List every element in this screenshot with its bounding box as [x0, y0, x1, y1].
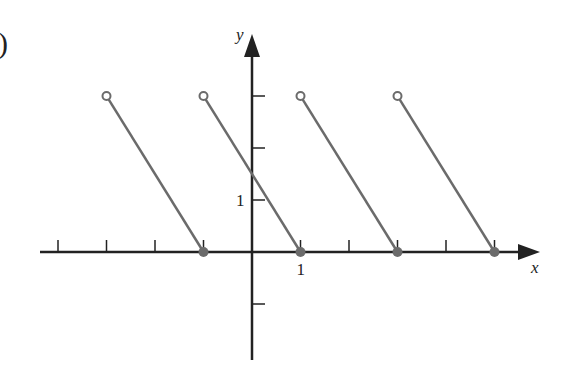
y-axis-label: y: [234, 25, 244, 44]
closed-endpoint: [296, 247, 306, 257]
open-endpoint: [200, 92, 208, 100]
curve-segment: [400, 99, 495, 252]
open-endpoint: [103, 92, 111, 100]
y-axis-arrow-icon: [244, 34, 260, 57]
open-endpoint: [394, 92, 402, 100]
closed-endpoint: [199, 247, 209, 257]
x-axis-label: x: [530, 258, 539, 277]
series: [103, 92, 500, 257]
axis-labels: xy11: [234, 25, 539, 279]
y-tick-label: 1: [236, 191, 245, 210]
closed-endpoint: [490, 247, 500, 257]
axes: [40, 34, 540, 360]
open-endpoint: [297, 92, 305, 100]
x-tick-label: 1: [297, 260, 306, 279]
curve-segment: [109, 99, 204, 252]
closed-endpoint: [393, 247, 403, 257]
curve-segment: [303, 99, 398, 252]
chart: xy11: [0, 0, 564, 379]
